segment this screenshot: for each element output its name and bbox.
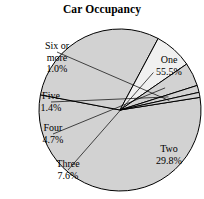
slice-label-six-or-more-value: 1.0% bbox=[27, 63, 87, 75]
slice-label-two-name: Two bbox=[139, 143, 199, 155]
pie-chart: Car Occupancy One 55.5% Two 29.8% Six or… bbox=[0, 0, 204, 199]
slice-label-two: Two 29.8% bbox=[139, 143, 199, 166]
slice-label-three-value: 7.6% bbox=[38, 170, 98, 182]
slice-label-five-name: Five bbox=[21, 90, 81, 102]
slice-label-five: Five 1.4% bbox=[21, 90, 81, 113]
slice-label-one-name: One bbox=[139, 54, 199, 66]
slice-label-four-name: Four bbox=[23, 122, 83, 134]
slice-label-two-value: 29.8% bbox=[139, 155, 199, 167]
slice-label-three-name: Three bbox=[38, 158, 98, 170]
slice-label-five-value: 1.4% bbox=[21, 102, 81, 114]
slice-label-four-value: 4.7% bbox=[23, 134, 83, 146]
slice-label-six-or-more-name-line2: more bbox=[27, 52, 87, 64]
slice-label-one: One 55.5% bbox=[139, 54, 199, 77]
slice-label-six-or-more-name-line1: Six or bbox=[27, 40, 87, 52]
slice-label-one-value: 55.5% bbox=[139, 66, 199, 78]
slice-label-six-or-more: Six or more 1.0% bbox=[27, 40, 87, 75]
slice-label-three: Three 7.6% bbox=[38, 158, 98, 181]
slice-label-four: Four 4.7% bbox=[23, 122, 83, 145]
